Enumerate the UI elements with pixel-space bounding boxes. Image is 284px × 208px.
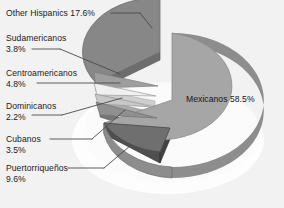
slice-label-puertorriquenos-value: 9.6% xyxy=(6,174,68,185)
slice-label-cubanos-name: Cubanos xyxy=(6,134,41,145)
slice-label-centroamericanos: Centroamericanos 4.8% xyxy=(6,68,77,89)
slice-label-mexicanos-text: Mexicanos 58.5% xyxy=(186,94,255,104)
slice-label-mexicanos: Mexicanos 58.5% xyxy=(186,94,255,105)
slice-label-centroamericanos-value: 4.8% xyxy=(6,79,77,90)
slice-label-sudamericanos-name: Sudamericanos xyxy=(6,33,66,44)
slice-label-other-hispanics: Other Hispanics 17.6% xyxy=(6,8,95,19)
slice-label-dominicanos: Dominicanos 2.2% xyxy=(6,101,56,122)
slice-label-puertorriquenos-name: Puertorriqueños xyxy=(6,163,68,174)
slice-label-cubanos: Cubanos 3.5% xyxy=(6,134,41,155)
pie-chart-figure: Other Hispanics 17.6% Sudamericanos 3.8%… xyxy=(0,0,284,208)
slice-label-sudamericanos-value: 3.8% xyxy=(6,44,66,55)
slice-label-other-hispanics-text: Other Hispanics 17.6% xyxy=(6,8,95,18)
slice-label-centroamericanos-name: Centroamericanos xyxy=(6,68,77,79)
slice-label-dominicanos-name: Dominicanos xyxy=(6,101,56,112)
slice-label-cubanos-value: 3.5% xyxy=(6,145,41,156)
slice-label-puertorriquenos: Puertorriqueños 9.6% xyxy=(6,163,68,184)
slice-label-dominicanos-value: 2.2% xyxy=(6,112,56,123)
slice-label-sudamericanos: Sudamericanos 3.8% xyxy=(6,33,66,54)
